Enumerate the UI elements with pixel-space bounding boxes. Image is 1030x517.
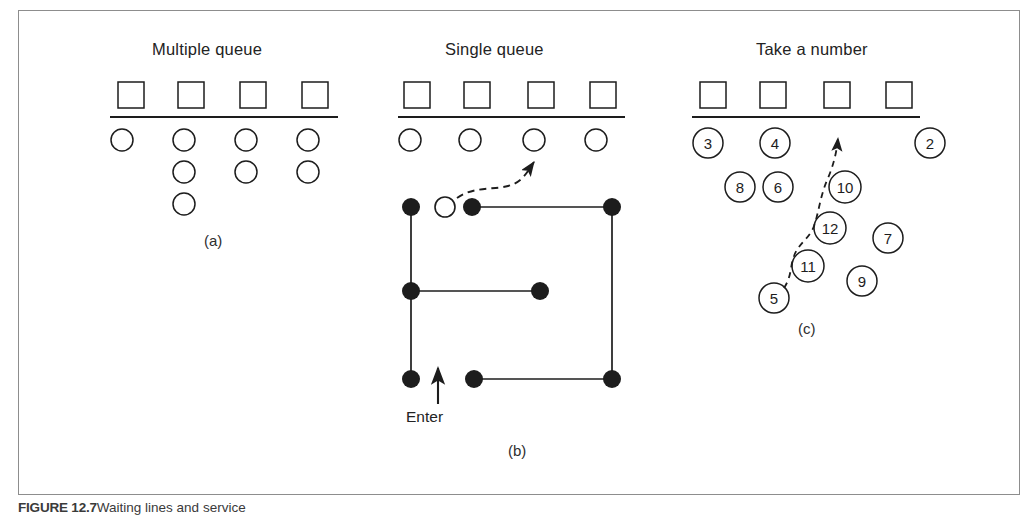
caption-figure-number: FIGURE 12.7	[18, 500, 97, 515]
waiting-customer	[173, 129, 195, 151]
panel-c-label: (c)	[798, 320, 816, 337]
server-station	[824, 82, 850, 108]
panel-c-artwork	[692, 82, 945, 313]
server-station	[886, 82, 912, 108]
ticket-number: 4	[771, 135, 779, 152]
server-station	[178, 82, 204, 108]
routing-arrow	[457, 162, 534, 198]
waiting-customer	[111, 129, 133, 151]
barrier-post	[465, 370, 483, 388]
waiting-customer	[235, 161, 257, 183]
barrier-post	[463, 198, 481, 216]
panel-b-label: (b)	[508, 442, 526, 459]
waiting-customer	[399, 129, 421, 151]
panel-c-title: Take a number	[756, 40, 868, 59]
waiting-customer	[459, 129, 481, 151]
figure-caption: FIGURE 12.7Waiting lines and service	[18, 500, 718, 517]
ticket-number: 6	[774, 179, 782, 196]
next-customer	[435, 197, 455, 217]
panel-b-title: Single queue	[445, 40, 544, 59]
waiting-customer	[585, 129, 607, 151]
server-station	[528, 82, 554, 108]
panel-a-label: (a)	[204, 232, 222, 249]
panel-b-artwork	[398, 82, 625, 404]
server-station	[590, 82, 616, 108]
barrier-post	[402, 198, 420, 216]
server-station	[464, 82, 490, 108]
ticket-number: 10	[837, 179, 854, 196]
barrier-post	[603, 370, 621, 388]
ticket-number: 8	[736, 179, 744, 196]
server-station	[404, 82, 430, 108]
panel-a-title: Multiple queue	[152, 40, 262, 59]
enter-label: Enter	[406, 408, 443, 426]
figure-canvas: Multiple queue (a) Single queue Enter (b…	[0, 0, 1030, 517]
server-station	[302, 82, 328, 108]
server-station	[700, 82, 726, 108]
waiting-customer	[173, 193, 195, 215]
panel-a-artwork	[110, 82, 338, 215]
barrier-post	[402, 370, 420, 388]
barrier-post	[531, 282, 549, 300]
waiting-customer	[297, 129, 319, 151]
ticket-number: 11	[800, 258, 816, 275]
caption-text: Waiting lines and service	[97, 500, 246, 515]
server-station	[118, 82, 144, 108]
server-station	[240, 82, 266, 108]
ticket-number: 5	[770, 290, 778, 307]
waiting-customer	[173, 161, 195, 183]
barrier-post	[402, 282, 420, 300]
ticket-number: 2	[926, 135, 934, 152]
ticket-number: 3	[704, 135, 712, 152]
waiting-customer	[297, 161, 319, 183]
waiting-customer	[523, 129, 545, 151]
barrier-post	[603, 198, 621, 216]
ticket-number: 12	[822, 220, 839, 237]
server-station	[760, 82, 786, 108]
ticket-number: 7	[884, 230, 892, 247]
ticket-number: 9	[858, 273, 866, 290]
figure-artwork	[0, 0, 1030, 517]
waiting-customer	[235, 129, 257, 151]
